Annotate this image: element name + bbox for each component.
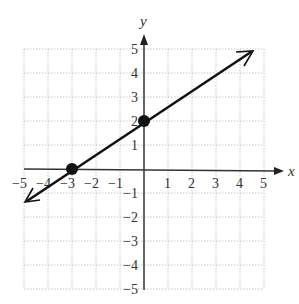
svg-text:3: 3 bbox=[212, 176, 219, 191]
svg-text:−3: −3 bbox=[123, 234, 138, 249]
svg-text:−2: −2 bbox=[84, 176, 99, 191]
svg-text:3: 3 bbox=[131, 90, 138, 105]
svg-text:1: 1 bbox=[164, 176, 171, 191]
svg-text:−4: −4 bbox=[123, 258, 138, 273]
x-axis bbox=[24, 167, 284, 175]
y-intercept-point bbox=[138, 115, 150, 127]
svg-text:4: 4 bbox=[236, 176, 243, 191]
svg-text:5: 5 bbox=[260, 176, 267, 191]
svg-text:−5: −5 bbox=[12, 176, 27, 191]
coordinate-plane: x y −5 −4 −3 −2 −1 1 2 3 4 5 5 4 3 2 1 −… bbox=[0, 0, 299, 304]
x-axis-label: x bbox=[287, 163, 295, 179]
svg-text:4: 4 bbox=[131, 66, 138, 81]
svg-text:1: 1 bbox=[131, 138, 138, 153]
svg-text:5: 5 bbox=[131, 42, 138, 57]
x-tick-labels: −5 −4 −3 −2 −1 1 2 3 4 5 bbox=[12, 176, 267, 191]
y-axis bbox=[140, 34, 148, 290]
svg-text:−1: −1 bbox=[108, 176, 123, 191]
svg-text:−2: −2 bbox=[123, 210, 138, 225]
y-axis-label: y bbox=[138, 13, 147, 29]
svg-text:2: 2 bbox=[188, 176, 195, 191]
svg-text:−5: −5 bbox=[123, 282, 138, 297]
x-intercept-point bbox=[66, 163, 78, 175]
svg-text:−1: −1 bbox=[123, 186, 138, 201]
